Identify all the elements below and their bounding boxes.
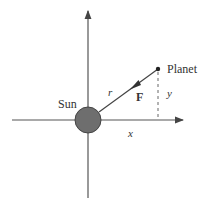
- r-label: r: [108, 86, 113, 98]
- x-label: x: [127, 127, 133, 139]
- y-label: y: [166, 87, 172, 99]
- planet-dot: [156, 67, 160, 71]
- force-arrowhead-icon: [130, 80, 141, 90]
- force-label: F: [136, 90, 143, 104]
- sun-label: Sun: [58, 97, 77, 111]
- planet-label: Planet: [167, 62, 198, 76]
- sun-circle: [75, 107, 101, 133]
- sun-planet-diagram: Sun Planet r F y x: [0, 0, 204, 210]
